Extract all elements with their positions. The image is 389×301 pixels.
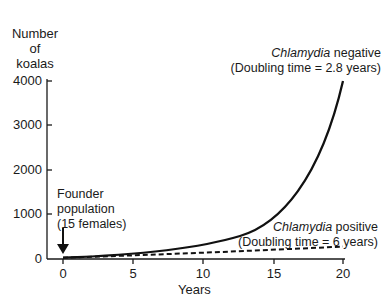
annotation-line: (15 females) — [57, 217, 126, 232]
negative-annotation: Chlamydia negative (Doubling time = 2.8 … — [231, 46, 381, 76]
positive-annotation: Chlamydia positive (Doubling time = 6 ye… — [238, 220, 378, 250]
annotation-line: population — [57, 202, 126, 217]
annotation-line: (Doubling time = 2.8 years) — [231, 61, 381, 76]
italic-text: Chlamydia — [271, 46, 330, 60]
founder-annotation: Founder population (15 females) — [57, 187, 126, 232]
annotation-text: positive — [332, 220, 378, 234]
annotation-line: Founder — [57, 187, 126, 202]
annotation-text: negative — [330, 46, 381, 60]
annotation-line: (Doubling time = 6 years) — [238, 235, 378, 250]
italic-text: Chlamydia — [273, 220, 332, 234]
